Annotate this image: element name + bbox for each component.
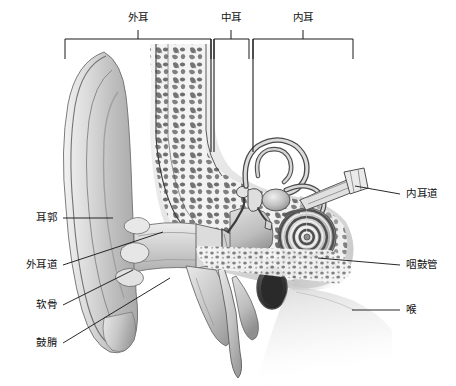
- label-ear-canal: 外耳道: [0, 259, 57, 270]
- vestibule: [262, 189, 290, 211]
- label-larynx: 喉: [406, 304, 417, 315]
- ear-anatomy-illustration: [0, 0, 456, 386]
- label-tympanic-membrane: 鼓膌: [0, 337, 57, 348]
- ear-anatomy-figure: 外耳中耳内耳 耳郭外耳道软骨鼓膌 内耳道咽鼓管喉: [0, 0, 456, 386]
- pinna: [63, 52, 137, 353]
- label-middle-ear: 中耳: [191, 12, 271, 23]
- label-eustachian-tube: 咽鼓管: [406, 259, 438, 270]
- bracket-inner-ear: [253, 30, 353, 59]
- bracket-middle-ear: [214, 30, 249, 59]
- cochlear-apex: [304, 234, 310, 240]
- label-outer-ear: 外耳: [98, 12, 178, 23]
- earlobe: [103, 312, 136, 352]
- label-auricle: 耳郭: [0, 212, 57, 223]
- label-inner-ear: 内耳: [263, 12, 343, 23]
- label-cartilage: 软骨: [0, 299, 57, 310]
- pinna-body: [63, 52, 137, 353]
- label-internal-auditory-canal: 内耳道: [406, 188, 438, 199]
- cartilage-plate-1: [120, 243, 149, 264]
